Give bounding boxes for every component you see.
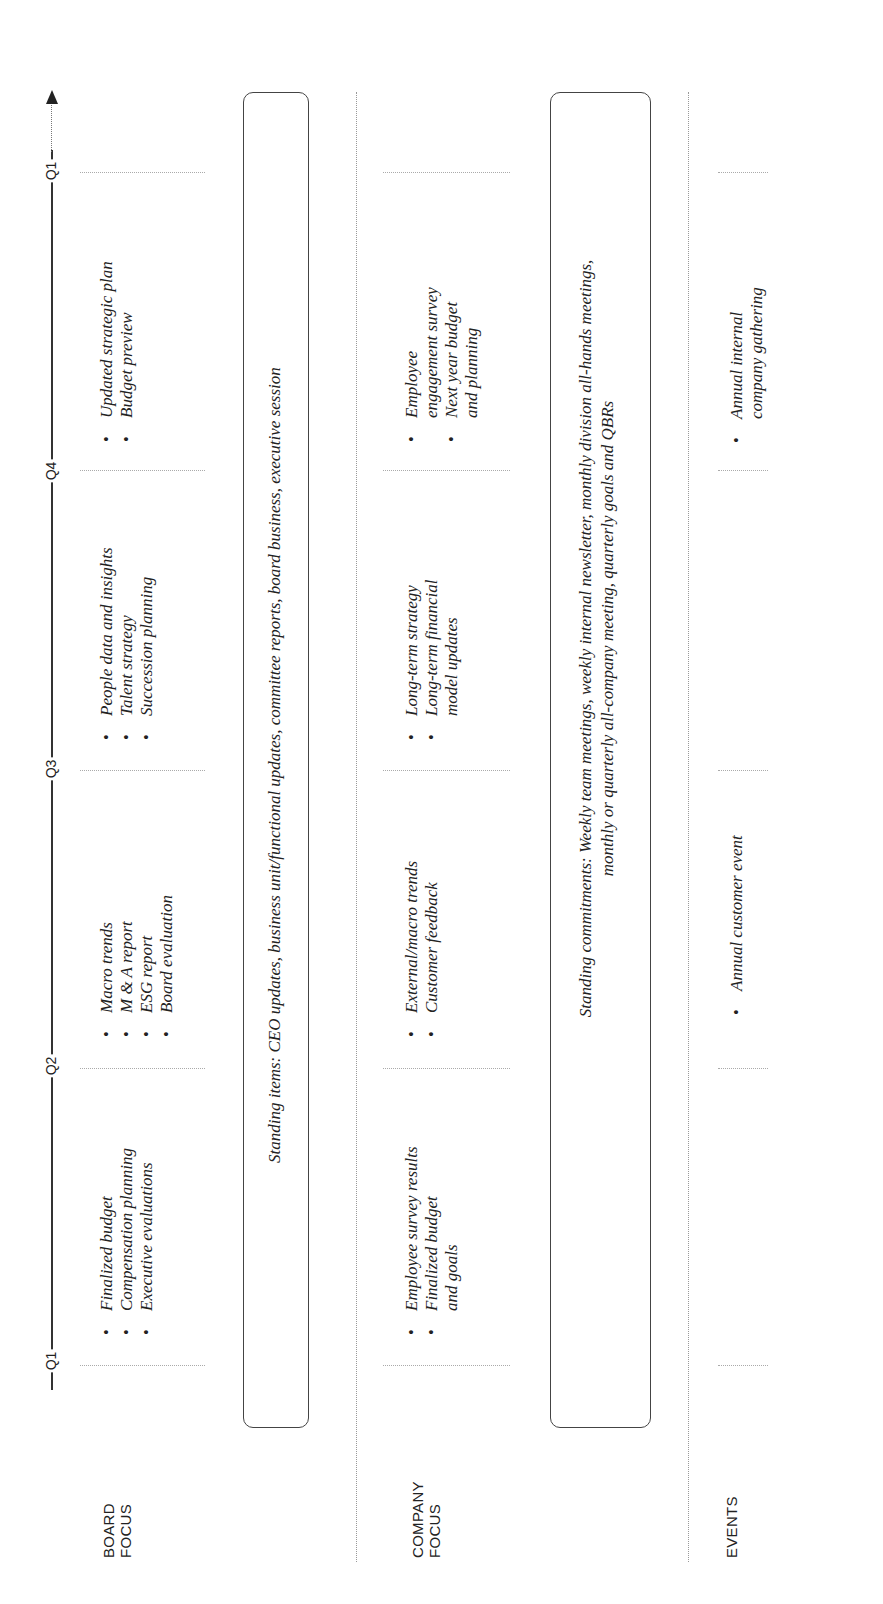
events-q4-list: Annual internal company gathering	[727, 287, 767, 443]
events-q2-list: Annual customer event	[727, 835, 747, 1015]
tick-board-q2	[80, 1068, 205, 1069]
list-item-text: Employee survey results	[402, 1146, 422, 1311]
list-item-text-continued: engagement survey	[422, 287, 442, 418]
list-item-text-continued: model updates	[442, 580, 462, 716]
list-item-text: Long-term financial	[422, 580, 442, 716]
quarter-label-q3: Q3	[40, 758, 62, 781]
row-label-board-focus: BOARD FOCUS	[100, 1503, 134, 1558]
tick-company-q1	[383, 1365, 510, 1366]
tick-company-q4	[383, 470, 510, 471]
list-item: Employee survey results	[402, 1146, 422, 1335]
quarter-label-q4: Q4	[40, 460, 62, 483]
tick-board-q1	[80, 1365, 205, 1366]
tick-company-q1-end	[383, 172, 510, 173]
row-label-line: FOCUS	[117, 1503, 134, 1558]
row-label-line: COMPANY	[409, 1481, 426, 1558]
company-standing-commitments-box: Standing commitments: Weekly team meetin…	[550, 92, 651, 1428]
board-standing-items-text: Standing items: CEO updates, business un…	[264, 367, 286, 1163]
row-separator-company-events	[688, 92, 689, 1562]
list-item-text-continued: and goals	[442, 1146, 462, 1311]
list-item-text: Finalized budget	[422, 1146, 442, 1311]
row-label-company-focus: COMPANY FOCUS	[409, 1481, 443, 1558]
list-item-text-continued: and planning	[462, 287, 482, 418]
list-item: Succession planning	[137, 547, 157, 740]
list-item: Annual internal company gathering	[727, 287, 767, 443]
board-q4-list: Updated strategic plan Budget preview	[97, 261, 137, 442]
list-item: Executive evaluations	[137, 1148, 157, 1335]
list-item: Updated strategic plan	[97, 261, 117, 442]
list-item-text: Employee	[402, 287, 422, 418]
company-q1-list: Employee survey results Finalized budget…	[402, 1146, 462, 1335]
list-item: Board evaluation	[157, 895, 177, 1037]
row-label-line: FOCUS	[426, 1481, 443, 1558]
tick-events-q1	[718, 1365, 768, 1366]
list-item-text: Annual internal	[727, 287, 747, 419]
tick-events-q2	[718, 1068, 768, 1069]
tick-board-q1-end	[80, 172, 205, 173]
list-item: Compensation planning	[117, 1148, 137, 1335]
board-q1-list: Finalized budget Compensation planning E…	[97, 1148, 157, 1335]
row-separator-board-company	[356, 92, 357, 1562]
tick-board-q4	[80, 470, 205, 471]
tick-events-q1-end	[718, 172, 768, 173]
list-item: Customer feedback	[422, 861, 442, 1037]
tick-events-q4	[718, 470, 768, 471]
row-label-events: EVENTS	[723, 1496, 740, 1558]
list-item: Finalized budget	[97, 1148, 117, 1335]
tick-company-q3	[383, 770, 510, 771]
list-item: Long-term financial model updates	[422, 580, 462, 740]
quarter-label-q2: Q2	[40, 1055, 62, 1078]
list-item-text-continued: company gathering	[747, 287, 767, 419]
arrow-up-icon	[46, 90, 58, 104]
board-q3-list: People data and insights Talent strategy…	[97, 547, 157, 740]
standing-text-line: monthly or quarterly all-company meeting…	[597, 46, 619, 1231]
list-item-text: Long-term strategy	[402, 580, 422, 716]
list-item: ESG report	[137, 895, 157, 1037]
board-q2-list: Macro trends M & A report ESG report Boa…	[97, 895, 177, 1037]
timeline-dotted-extension	[51, 100, 52, 152]
list-item: Budget preview	[117, 261, 137, 442]
list-item: M & A report	[117, 895, 137, 1037]
standing-text-line: Standing commitments: Weekly team meetin…	[575, 46, 597, 1231]
row-label-line: BOARD	[100, 1503, 117, 1558]
quarter-label-q1-start: Q1	[40, 1350, 62, 1373]
quarter-label-q1-end: Q1	[40, 160, 62, 183]
list-item: Talent strategy	[117, 547, 137, 740]
list-item: External/macro trends	[402, 861, 422, 1037]
list-item: Next year budget and planning	[442, 287, 482, 442]
list-item: People data and insights	[97, 547, 117, 740]
company-q4-list: Employee engagement survey Next year bud…	[402, 287, 482, 442]
list-item: Employee engagement survey	[402, 287, 442, 442]
tick-events-q3	[718, 770, 768, 771]
list-item: Macro trends	[97, 895, 117, 1037]
list-item: Long-term strategy	[402, 580, 422, 740]
list-item: Finalized budget and goals	[422, 1146, 462, 1335]
tick-company-q2	[383, 1068, 510, 1069]
company-standing-commitments-text: Standing commitments: Weekly team meetin…	[575, 46, 619, 1231]
list-item-text: Next year budget	[442, 287, 462, 418]
company-q2-list: External/macro trends Customer feedback	[402, 861, 442, 1037]
company-q3-list: Long-term strategy Long-term financial m…	[402, 580, 462, 740]
list-item: Annual customer event	[727, 835, 747, 1015]
tick-board-q3	[80, 770, 205, 771]
board-standing-items-box: Standing items: CEO updates, business un…	[243, 92, 309, 1428]
